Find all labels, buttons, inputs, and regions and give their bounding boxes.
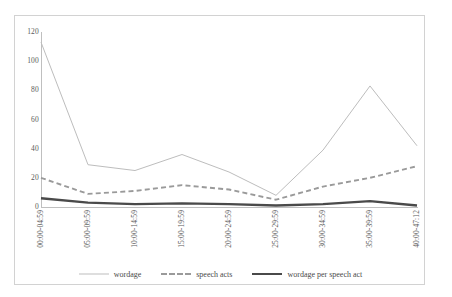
plot-area — [41, 32, 417, 207]
y-axis-tick-label: 60 — [17, 116, 39, 124]
legend-label: wordage — [114, 270, 142, 279]
legend-label: speech acts — [196, 270, 232, 279]
x-axis-line — [41, 207, 418, 208]
legend-item-wordage-per-speech-act[interactable]: wordage per speech act — [252, 270, 362, 279]
y-axis-tick-label: 100 — [17, 57, 39, 65]
series-line-wordage-per-speech-act — [41, 198, 417, 205]
series-line-wordage — [41, 42, 417, 195]
chart-figure: 020406080100120 00:00-04:5905:00-09:5910… — [14, 15, 425, 285]
y-axis-tick-label: 120 — [17, 28, 39, 36]
x-axis-tick-label: 40:00-47:12 — [413, 210, 421, 248]
chart-legend: wordagespeech actswordage per speech act — [15, 266, 426, 282]
y-axis-tick-labels: 020406080100120 — [15, 16, 39, 216]
x-axis-tick-label: 20:00-24:59 — [225, 210, 233, 248]
legend-label: wordage per speech act — [287, 270, 362, 279]
legend-item-wordage[interactable]: wordage — [79, 270, 142, 279]
x-axis-tick-label: 25:00-29:59 — [272, 210, 280, 248]
x-axis-tick-label: 00:00-04:59 — [37, 210, 45, 248]
legend-item-speech-acts[interactable]: speech acts — [161, 270, 232, 279]
legend-swatch-icon — [161, 271, 191, 277]
x-axis-tick-label: 35:00-39:59 — [366, 210, 374, 248]
legend-swatch-icon — [252, 271, 282, 277]
series-line-speech-acts — [41, 166, 417, 200]
x-axis-tick-labels: 00:00-04:5905:00-09:5910:00-14:5915:00-1… — [41, 210, 418, 272]
x-axis-tick-label: 10:00-14:59 — [131, 210, 139, 248]
y-axis-tick-label: 40 — [17, 145, 39, 153]
y-axis-tick-label: 20 — [17, 174, 39, 182]
x-axis-tick-label: 05:00-09:59 — [84, 210, 92, 248]
series-lines-svg — [41, 32, 417, 207]
x-axis-tick-label: 30:00-34:59 — [319, 210, 327, 248]
x-axis-tick-label: 15:00-19:59 — [178, 210, 186, 248]
legend-swatch-icon — [79, 271, 109, 277]
y-axis-tick-label: 80 — [17, 86, 39, 94]
